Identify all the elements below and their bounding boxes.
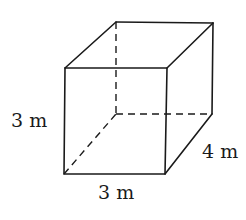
top-back-edge	[116, 22, 213, 23]
top-right-slant-edge	[167, 23, 213, 68]
back-right-vertical-edge	[212, 23, 213, 114]
top-left-slant-edge	[65, 22, 116, 68]
hidden-bottom-left-slant-edge	[64, 114, 116, 174]
depth-label: 4 m	[202, 142, 238, 161]
height-label: 3 m	[11, 111, 47, 130]
rectangular-prism-diagram: 3 m 4 m 3 m	[0, 0, 246, 220]
width-label: 3 m	[98, 183, 134, 202]
